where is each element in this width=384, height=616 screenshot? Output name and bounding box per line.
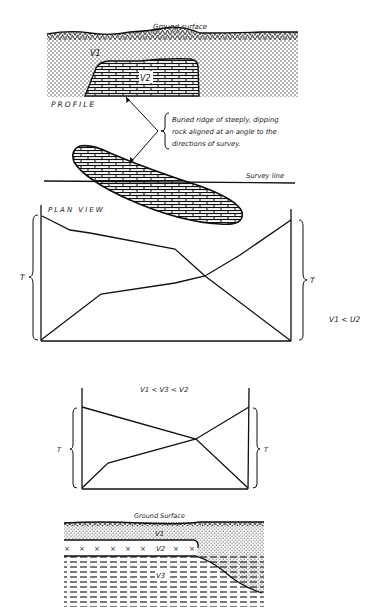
svg-text:×: × xyxy=(64,545,70,553)
annotation-line-2: rock aligned at an angle to the xyxy=(172,128,277,136)
layer-v2-label: V2 xyxy=(140,74,151,83)
svg-text:×: × xyxy=(125,545,131,553)
diagram-canvas: Ground surface V1 V2 PROFILE Buried ridg… xyxy=(0,0,384,616)
profile-section-label: PROFILE xyxy=(51,100,96,109)
layer-v3-label-2: V3 xyxy=(156,572,165,580)
svg-text:×: × xyxy=(140,545,146,553)
annotation-brace xyxy=(161,113,169,149)
time-distance-graph-2: V1 < V3 < V2 T T xyxy=(57,386,269,489)
right-axis xyxy=(248,388,249,489)
time-distance-graph-1: T T V1 < U2 xyxy=(20,205,360,341)
svg-text:×: × xyxy=(79,545,85,553)
survey-line-label: Survey line xyxy=(246,172,284,180)
svg-text:×: × xyxy=(110,545,116,553)
left-t-label: T xyxy=(57,446,62,454)
right-t-label: T xyxy=(264,446,269,454)
arrow-to-plan xyxy=(130,131,158,163)
forward-traveltime-curve xyxy=(82,407,249,488)
right-t-bracket xyxy=(253,408,260,488)
ground-surface-hatch xyxy=(47,27,298,40)
ground-surface-label-2: Ground Surface xyxy=(134,512,185,520)
reverse-traveltime-curve xyxy=(42,216,291,341)
forward-traveltime-curve xyxy=(41,220,291,340)
arrowhead-up-icon xyxy=(126,97,130,103)
layer-v1-label: V1 xyxy=(90,49,101,58)
v2-cross-markers: ××× ××× ×× xyxy=(64,545,195,553)
svg-text:×: × xyxy=(173,545,179,553)
right-t-bracket xyxy=(299,220,307,340)
annotation-line-1: Buried ridge of steeply, dipping xyxy=(172,116,279,124)
left-t-label: T xyxy=(20,273,26,282)
three-layer-section: Ground Surface ××× ××× ×× V1 V2 V3 xyxy=(64,512,264,607)
ridge-annotation: Buried ridge of steeply, dipping rock al… xyxy=(126,97,279,163)
velocity-condition-1: V1 < U2 xyxy=(329,315,360,324)
layer-v1-label-2: V1 xyxy=(155,530,164,538)
svg-text:×: × xyxy=(189,545,195,553)
profile-section: Ground surface V1 V2 PROFILE xyxy=(47,23,298,109)
velocity-condition-2: V1 < V3 < V2 xyxy=(140,386,189,394)
left-t-bracket xyxy=(70,408,77,488)
right-t-label: T xyxy=(310,276,316,285)
left-t-bracket xyxy=(29,215,38,340)
layer-v2-label-2: V2 xyxy=(156,545,166,553)
svg-text:×: × xyxy=(94,545,100,553)
annotation-line-3: directions of survey. xyxy=(172,140,241,148)
arrow-to-profile xyxy=(126,97,158,131)
plan-view-section: Survey line PLAN VIEW xyxy=(44,146,295,225)
plan-view-label: PLAN VIEW xyxy=(48,206,105,214)
